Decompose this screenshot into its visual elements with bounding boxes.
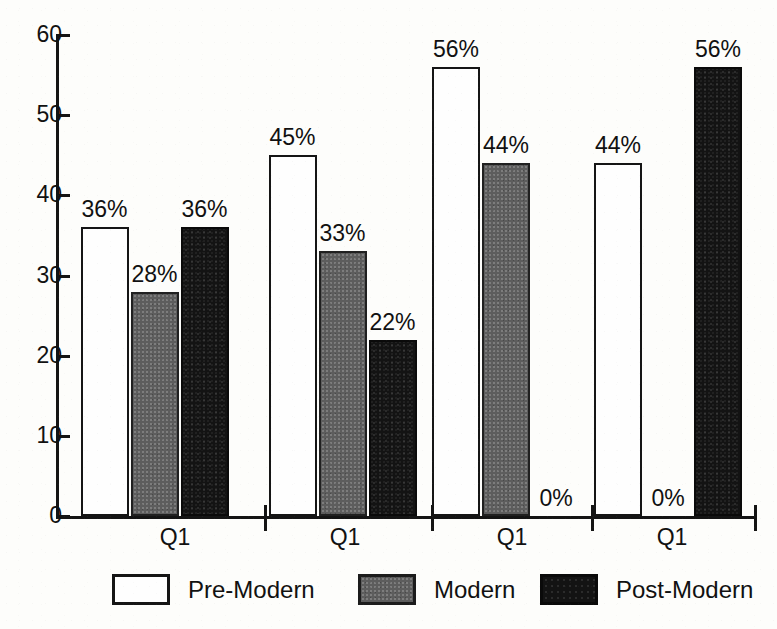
bar-group1-post-modern [181, 227, 229, 516]
bar-chart-figure: 6050403020100 36%28%36%45%33%22%56%44%0%… [0, 0, 777, 629]
x-axis-separator-tick-1 [264, 505, 267, 531]
chart-legend: Pre-ModernModernPost-Modern [0, 566, 777, 616]
y-axis-tick-label-20: 20 [16, 344, 62, 367]
x-axis-group-label-1: Q1 [135, 524, 215, 550]
bar-group1-modern [131, 292, 179, 516]
bar-value-label-group2-modern: 33% [305, 222, 381, 245]
legend-swatch-pre-modern-icon [112, 574, 170, 605]
y-axis-tick-label-50: 50 [16, 103, 62, 126]
x-axis-separator-tick-4 [754, 505, 757, 531]
y-axis-tick-label-60: 60 [16, 23, 62, 46]
bar-value-label-group1-pre-modern: 36% [67, 198, 143, 221]
bar-value-label-group2-pre-modern: 45% [255, 126, 331, 149]
bar-value-label-group3-post-modern: 0% [518, 487, 594, 510]
y-axis-tick-label-30: 30 [16, 264, 62, 287]
bar-value-label-group2-post-modern: 22% [355, 311, 431, 334]
bar-value-label-group4-post-modern: 56% [680, 38, 756, 61]
legend-item-pre-modern[interactable]: Pre-Modern [112, 574, 315, 605]
legend-item-post-modern[interactable]: Post-Modern [540, 574, 753, 605]
bar-value-label-group4-pre-modern: 44% [580, 134, 656, 157]
x-axis-group-label-4: Q1 [632, 524, 712, 550]
bar-group4-post-modern [694, 67, 742, 516]
bar-group2-post-modern [369, 340, 417, 516]
legend-item-modern[interactable]: Modern [358, 574, 515, 605]
x-axis-group-label-3: Q1 [472, 524, 552, 550]
bar-group3-modern [482, 163, 530, 516]
legend-swatch-post-modern-icon [540, 574, 598, 605]
bar-group4-pre-modern [594, 163, 642, 516]
plot-area: 6050403020100 36%28%36%45%33%22%56%44%0%… [0, 0, 777, 545]
x-axis-group-label-2: Q1 [305, 524, 385, 550]
x-axis-line [56, 516, 756, 519]
y-axis-tick-label-10: 10 [16, 424, 62, 447]
bar-value-label-group3-modern: 44% [468, 134, 544, 157]
bar-value-label-group3-pre-modern: 56% [418, 38, 494, 61]
y-axis-tick-label-40: 40 [16, 183, 62, 206]
bar-value-label-group1-post-modern: 36% [167, 198, 243, 221]
legend-label-post-modern: Post-Modern [616, 578, 753, 602]
bar-group2-modern [319, 251, 367, 516]
legend-label-modern: Modern [434, 578, 515, 602]
y-axis-tick-label-0: 0 [16, 504, 62, 527]
bar-group2-pre-modern [269, 155, 317, 516]
legend-label-pre-modern: Pre-Modern [188, 578, 315, 602]
legend-swatch-modern-icon [358, 574, 416, 605]
